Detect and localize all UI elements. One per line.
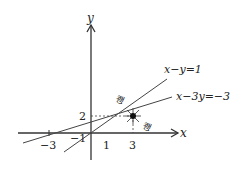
tick-label-y-2: 2 (79, 110, 86, 123)
graph: y x −3 1 3 −1 2 x−y=1 x−3y=−3 쾡 쾡 (0, 0, 251, 169)
tick-label-y-neg1: −1 (70, 132, 86, 145)
tick-label-x-neg3: −3 (40, 139, 56, 152)
stamp-lower: 쾡 (141, 121, 152, 133)
line2-label: x−3y=−3 (176, 90, 230, 103)
intersection-point (130, 113, 136, 119)
stamp-upper: 쾡 (114, 94, 125, 106)
line1-label: x−y=1 (164, 63, 202, 76)
line-x-minus-3y-eq-neg3 (23, 97, 172, 143)
tick-label-x-3: 3 (129, 139, 136, 152)
tick-label-x-1: 1 (103, 139, 110, 152)
x-axis-label: x (180, 126, 187, 140)
y-axis-label: y (86, 11, 94, 25)
